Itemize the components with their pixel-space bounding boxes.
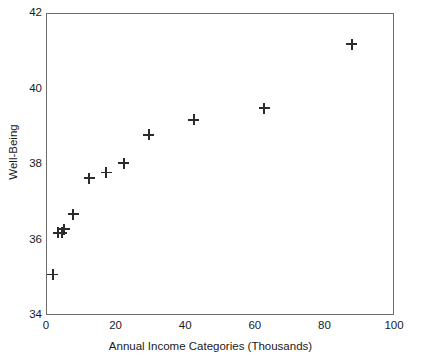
x-tick-label: 20 [109,320,122,332]
y-tick-label: 38 [29,158,42,170]
data-point [346,39,357,50]
x-axis-title: Annual Income Categories (Thousands) [0,340,421,352]
data-point [118,158,129,169]
x-tick-label: 0 [43,320,49,332]
data-point [47,269,58,280]
data-point [68,209,79,220]
x-tick-label: 100 [384,320,403,332]
data-point [56,227,67,238]
y-tick-label: 42 [29,7,42,19]
x-tick-label: 40 [179,320,192,332]
data-point [259,103,270,114]
data-point [84,173,95,184]
x-tick-label: 60 [248,320,261,332]
x-tick-label: 80 [318,320,331,332]
plot-area [46,13,394,315]
data-point [143,129,154,140]
y-axis-title: Well-Being [7,107,19,197]
data-point [188,114,199,125]
y-tick-label: 40 [29,83,42,95]
x-axis-tick-labels: 020406080100 [0,320,421,336]
data-point [101,167,112,178]
data-point [59,224,70,235]
data-point [53,227,64,238]
scatter-chart-figure: 3436384042 020406080100 Annual Income Ca… [0,0,421,364]
y-tick-label: 36 [29,234,42,246]
